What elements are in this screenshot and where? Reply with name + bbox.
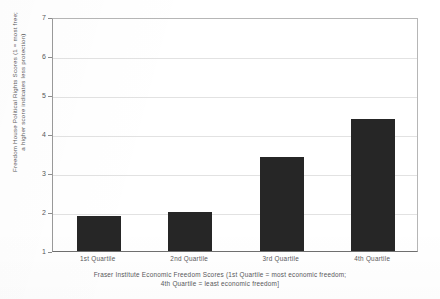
y-tick-mark bbox=[48, 213, 52, 214]
x-axis-label-line-2: 4th Quartile = least economic freedom] bbox=[0, 279, 440, 288]
y-tick-mark bbox=[48, 18, 52, 19]
y-tick-label: 6 bbox=[26, 53, 46, 60]
x-tick-label: 4th Quartile bbox=[327, 256, 419, 262]
gridline bbox=[53, 97, 417, 98]
y-tick-mark bbox=[48, 252, 52, 253]
y-tick-label: 7 bbox=[26, 14, 46, 21]
y-tick-label: 1 bbox=[26, 248, 46, 255]
bar-chart-figure: Freedom House Political Rights Scores (1… bbox=[0, 0, 440, 299]
bar bbox=[351, 119, 395, 251]
x-tick-label: 2nd Quartile bbox=[144, 256, 236, 262]
y-tick-label: 5 bbox=[26, 92, 46, 99]
bar bbox=[260, 157, 304, 251]
bar bbox=[77, 216, 121, 251]
bar bbox=[168, 212, 212, 251]
y-axis-label: Freedom House Political Rights Scores (1… bbox=[11, 0, 27, 197]
y-tick-mark bbox=[48, 57, 52, 58]
y-tick-label: 3 bbox=[26, 170, 46, 177]
y-tick-mark bbox=[48, 96, 52, 97]
x-axis-label-line-1: Fraser Institute Economic Freedom Scores… bbox=[0, 270, 440, 279]
x-axis-label: Fraser Institute Economic Freedom Scores… bbox=[0, 270, 440, 288]
y-tick-mark bbox=[48, 174, 52, 175]
y-axis-label-line-1: Freedom House Political Rights Scores (1… bbox=[11, 0, 19, 197]
gridline bbox=[53, 58, 417, 59]
y-tick-label: 2 bbox=[26, 209, 46, 216]
x-tick-label: 3rd Quartile bbox=[235, 256, 327, 262]
x-tick-label: 1st Quartile bbox=[52, 256, 144, 262]
y-tick-mark bbox=[48, 135, 52, 136]
plot-area bbox=[52, 18, 418, 252]
y-tick-label: 4 bbox=[26, 131, 46, 138]
